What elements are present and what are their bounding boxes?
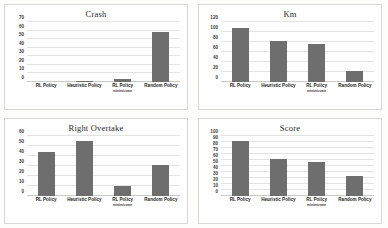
x-axis-category-label: Random Policy xyxy=(142,197,180,217)
bar-slot xyxy=(65,136,103,196)
y-axis-tick-label: 70 xyxy=(213,147,218,152)
y-axis-tick-label: 0 xyxy=(21,189,24,194)
x-axis-category-sublabel: minimizzate xyxy=(298,89,336,93)
bar xyxy=(114,186,131,197)
bar-slot xyxy=(142,22,180,82)
y-axis-tick-label: 40 xyxy=(19,40,24,45)
chart-title-score: Score xyxy=(199,123,381,133)
x-axis-category-sublabel: minimizzate xyxy=(104,89,142,93)
bar xyxy=(308,44,325,82)
y-axis-tick-label: 50 xyxy=(19,139,24,144)
y-axis-tick-label: 60 xyxy=(19,129,24,134)
bar xyxy=(232,141,249,196)
y-axis-tick-label: 100 xyxy=(210,25,218,30)
figure-page: Crash 010203040506070 RL PolicyHeuristic… xyxy=(0,0,388,228)
x-axis-labels-right-overtake: RL PolicyHeuristic PolicyRL Policyminimi… xyxy=(27,197,180,217)
y-axis-tick-label: 50 xyxy=(213,159,218,164)
bar xyxy=(38,152,55,196)
chart-frame-score: Score 0102030405060708090100 RL PolicyHe… xyxy=(198,118,382,224)
y-axis-tick-label: 40 xyxy=(19,149,24,154)
bar-slot xyxy=(221,136,259,196)
bar-series-right-overtake xyxy=(27,136,180,196)
y-axis-tick-label: 80 xyxy=(213,35,218,40)
x-axis-category-label: Heuristic Policy xyxy=(65,83,103,103)
x-axis-category-label: Heuristic Policy xyxy=(259,197,297,217)
y-axis-tick-label: 20 xyxy=(19,169,24,174)
bar-series-km xyxy=(221,22,374,82)
x-axis-category-label: Heuristic Policy xyxy=(65,197,103,217)
y-axis-tick-label: 60 xyxy=(19,23,24,28)
bar-slot xyxy=(259,22,297,82)
x-axis-category-label: RL Policy xyxy=(221,83,259,103)
bar-series-crash xyxy=(27,22,180,82)
plot-area-score: 0102030405060708090100 xyxy=(221,136,374,196)
bar xyxy=(270,159,287,196)
chart-frame-right-overtake: Right Overtake 0102030405060 RL PolicyHe… xyxy=(4,118,188,224)
y-axis-tick-label: 80 xyxy=(213,141,218,146)
x-axis-labels-crash: RL PolicyHeuristic PolicyRL Policyminimi… xyxy=(27,83,180,103)
y-axis-tick-label: 10 xyxy=(19,66,24,71)
y-axis-tick-label: 30 xyxy=(213,171,218,176)
bar-slot xyxy=(336,136,374,196)
bar-slot xyxy=(259,136,297,196)
plot-area-crash: 010203040506070 xyxy=(27,22,180,82)
x-axis-category-label: RL Policy xyxy=(221,197,259,217)
x-axis-category-sublabel: minimizzate xyxy=(104,203,142,207)
x-axis-labels-score: RL PolicyHeuristic PolicyRL Policyminimi… xyxy=(221,197,374,217)
bar-slot xyxy=(27,22,65,82)
bar xyxy=(232,28,249,82)
bar-slot xyxy=(298,136,336,196)
y-axis-tick-label: 30 xyxy=(19,159,24,164)
x-axis-category-label: RL Policyminimizzate xyxy=(298,197,336,217)
y-axis-tick-label: 70 xyxy=(19,15,24,20)
y-axis-tick-label: 20 xyxy=(213,177,218,182)
y-axis-tick-label: 20 xyxy=(213,65,218,70)
bar-series-score xyxy=(221,136,374,196)
x-axis-category-label: Random Policy xyxy=(336,197,374,217)
chart-panel-km: Km 020406080100120 RL PolicyHeuristic Po… xyxy=(194,0,388,114)
bar-slot xyxy=(104,22,142,82)
bar xyxy=(346,176,363,196)
bar xyxy=(270,41,287,83)
y-axis-tick-label: 0 xyxy=(215,189,218,194)
x-axis-labels-km: RL PolicyHeuristic PolicyRL Policyminimi… xyxy=(221,83,374,103)
y-axis-tick-label: 10 xyxy=(213,183,218,188)
x-axis-category-label: RL Policyminimizzate xyxy=(104,197,142,217)
x-axis-category-label: RL Policyminimizzate xyxy=(104,83,142,103)
bar xyxy=(346,71,363,82)
x-axis-category-sublabel: minimizzate xyxy=(298,203,336,207)
bar xyxy=(76,81,93,82)
y-axis-tick-label: 0 xyxy=(21,75,24,80)
chart-panel-score: Score 0102030405060708090100 RL PolicyHe… xyxy=(194,114,388,228)
y-axis-tick-label: 30 xyxy=(19,49,24,54)
bar-slot xyxy=(336,22,374,82)
y-axis-tick-label: 40 xyxy=(213,55,218,60)
x-axis-category-label: RL Policy xyxy=(27,83,65,103)
x-axis-category-label: RL Policy xyxy=(27,197,65,217)
bar-slot xyxy=(142,136,180,196)
bar xyxy=(152,32,169,82)
y-axis-tick-label: 90 xyxy=(213,135,218,140)
bar-slot xyxy=(221,22,259,82)
chart-grid: Crash 010203040506070 RL PolicyHeuristic… xyxy=(0,0,388,228)
chart-title-right-overtake: Right Overtake xyxy=(5,123,187,133)
y-axis-tick-label: 10 xyxy=(19,179,24,184)
plot-area-right-overtake: 0102030405060 xyxy=(27,136,180,196)
chart-panel-crash: Crash 010203040506070 RL PolicyHeuristic… xyxy=(0,0,194,114)
bar-slot xyxy=(104,136,142,196)
y-axis-tick-label: 100 xyxy=(210,129,218,134)
x-axis-category-label: Heuristic Policy xyxy=(259,83,297,103)
x-axis-category-label: RL Policyminimizzate xyxy=(298,83,336,103)
bar-slot xyxy=(298,22,336,82)
y-axis-tick-label: 120 xyxy=(210,15,218,20)
bar xyxy=(308,162,325,196)
bar xyxy=(76,141,93,196)
plot-area-km: 020406080100120 xyxy=(221,22,374,82)
y-axis-tick-label: 60 xyxy=(213,45,218,50)
x-axis-category-label: Random Policy xyxy=(336,83,374,103)
bar-slot xyxy=(65,22,103,82)
y-axis-tick-label: 50 xyxy=(19,32,24,37)
y-axis-tick-label: 20 xyxy=(19,57,24,62)
chart-title-crash: Crash xyxy=(5,9,187,19)
chart-title-km: Km xyxy=(199,9,381,19)
